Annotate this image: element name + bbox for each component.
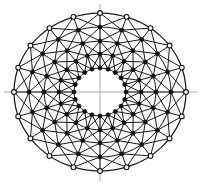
mesh-node-hollow bbox=[179, 65, 184, 70]
mesh-svg bbox=[0, 0, 201, 185]
mesh-node-solid bbox=[59, 78, 63, 82]
mesh-node-solid bbox=[143, 120, 147, 124]
mesh-node-solid bbox=[77, 104, 81, 108]
mesh-node-solid bbox=[53, 120, 57, 124]
mesh-node-solid bbox=[56, 37, 60, 41]
mesh-node-solid bbox=[83, 109, 87, 113]
mesh-node-solid bbox=[81, 41, 85, 45]
mesh-node-solid bbox=[83, 71, 87, 75]
mesh-node-solid bbox=[115, 41, 119, 45]
mesh-node-hollow bbox=[16, 65, 21, 70]
mesh-node-solid bbox=[30, 110, 34, 114]
mesh-node-solid bbox=[154, 90, 158, 94]
mesh-node-solid bbox=[41, 52, 45, 56]
mesh-node-solid bbox=[169, 90, 173, 94]
mesh-node-solid bbox=[131, 49, 135, 53]
mesh-node-solid bbox=[90, 67, 94, 71]
mesh-node-solid bbox=[140, 37, 144, 41]
mesh-node-hollow bbox=[167, 43, 172, 48]
mesh-node-solid bbox=[106, 67, 110, 71]
mesh-node-solid bbox=[65, 112, 69, 116]
mesh-node-solid bbox=[143, 60, 147, 64]
mesh-node-hollow bbox=[71, 165, 76, 170]
mesh-node-solid bbox=[98, 39, 102, 43]
mesh-node-hollow bbox=[16, 114, 21, 119]
mesh-node-solid bbox=[65, 131, 69, 135]
mesh-node-solid bbox=[115, 139, 119, 143]
mesh-node-solid bbox=[73, 83, 77, 87]
mesh-node-solid bbox=[139, 90, 143, 94]
mesh-node-solid bbox=[76, 152, 80, 156]
mesh-node-hollow bbox=[184, 90, 189, 95]
mesh-node-solid bbox=[113, 71, 117, 75]
mesh-node-hollow bbox=[98, 169, 103, 174]
mesh-node-hollow bbox=[12, 90, 17, 95]
mesh-node-hollow bbox=[179, 114, 184, 119]
mesh-node-solid bbox=[59, 102, 63, 106]
mesh-node-solid bbox=[30, 70, 34, 74]
mesh-node-solid bbox=[74, 121, 78, 125]
mesh-node-solid bbox=[137, 102, 141, 106]
mesh-node-solid bbox=[113, 109, 117, 113]
mesh-node-solid bbox=[45, 106, 49, 110]
mesh-node-solid bbox=[120, 152, 124, 156]
mesh-node-solid bbox=[57, 90, 61, 94]
mesh-node-solid bbox=[123, 97, 127, 101]
mesh-node-solid bbox=[111, 126, 115, 130]
mesh-node-solid bbox=[124, 90, 128, 94]
mesh-node-solid bbox=[90, 113, 94, 117]
mesh-node-hollow bbox=[124, 165, 129, 170]
mesh-figure bbox=[0, 0, 201, 185]
mesh-node-solid bbox=[155, 52, 159, 56]
mesh-node-solid bbox=[77, 76, 81, 80]
mesh-node-solid bbox=[85, 54, 89, 58]
mesh-node-solid bbox=[45, 74, 49, 78]
mesh-node-solid bbox=[137, 78, 141, 82]
mesh-node-solid bbox=[122, 121, 126, 125]
mesh-node-hollow bbox=[28, 43, 33, 48]
mesh-node-solid bbox=[140, 143, 144, 147]
mesh-node-hollow bbox=[28, 136, 33, 141]
mesh-node-solid bbox=[98, 25, 102, 29]
mesh-node-solid bbox=[41, 128, 45, 132]
mesh-node-solid bbox=[72, 90, 76, 94]
mesh-node-solid bbox=[151, 106, 155, 110]
mesh-node-solid bbox=[56, 143, 60, 147]
mesh-node-solid bbox=[76, 28, 80, 32]
mesh-node-solid bbox=[81, 139, 85, 143]
mesh-node-solid bbox=[27, 90, 31, 94]
mesh-node-solid bbox=[53, 60, 57, 64]
mesh-node-solid bbox=[151, 74, 155, 78]
mesh-node-solid bbox=[111, 54, 115, 58]
mesh-node-solid bbox=[65, 49, 69, 53]
mesh-node-solid bbox=[42, 90, 46, 94]
mesh-node-solid bbox=[166, 70, 170, 74]
mesh-node-solid bbox=[98, 52, 102, 56]
mesh-node-solid bbox=[65, 68, 69, 72]
mesh-node-solid bbox=[166, 110, 170, 114]
mesh-node-solid bbox=[119, 104, 123, 108]
mesh-node-hollow bbox=[124, 14, 129, 19]
mesh-node-hollow bbox=[167, 136, 172, 141]
mesh-node-solid bbox=[131, 68, 135, 72]
mesh-node-solid bbox=[106, 113, 110, 117]
mesh-node-solid bbox=[98, 155, 102, 159]
mesh-node-hollow bbox=[47, 26, 52, 31]
mesh-node-hollow bbox=[148, 26, 153, 31]
mesh-node-solid bbox=[98, 66, 102, 70]
mesh-node-solid bbox=[74, 59, 78, 63]
mesh-node-hollow bbox=[98, 11, 103, 16]
mesh-node-solid bbox=[85, 126, 89, 130]
mesh-node-hollow bbox=[71, 14, 76, 19]
mesh-node-solid bbox=[119, 76, 123, 80]
mesh-node-solid bbox=[131, 131, 135, 135]
mesh-node-solid bbox=[120, 28, 124, 32]
mesh-node-solid bbox=[98, 114, 102, 118]
mesh-node-hollow bbox=[47, 154, 52, 159]
mesh-node-solid bbox=[155, 128, 159, 132]
mesh-node-hollow bbox=[148, 154, 153, 159]
mesh-node-solid bbox=[73, 97, 77, 101]
mesh-node-solid bbox=[131, 112, 135, 116]
mesh-node-solid bbox=[123, 83, 127, 87]
mesh-node-solid bbox=[122, 59, 126, 63]
